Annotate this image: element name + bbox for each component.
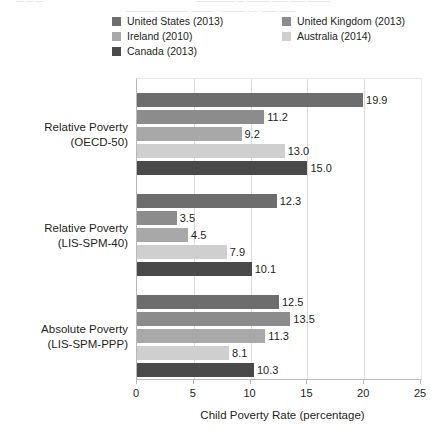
bar[interactable] [137,93,363,107]
bar-value-label: 10.1 [252,264,276,275]
bar[interactable] [137,363,254,377]
legend-item-canada[interactable]: Canada (2013) [112,44,197,58]
legend-label-australia: Australia (2014) [297,31,371,42]
category-label-line: (LIS-SPM-40) [8,236,128,251]
bar[interactable] [137,245,227,259]
bar-row: 19.9 [137,93,421,107]
bar[interactable] [137,161,307,175]
bar-row: 11.2 [137,110,421,124]
legend-item-ireland[interactable]: Ireland (2010) [112,29,192,43]
bar-value-label: 13.0 [285,146,309,157]
category-label-line: Relative Poverty [8,120,128,135]
bar-row: 12.5 [137,295,421,309]
x-axis-title: Child Poverty Rate (percentage) [0,409,445,421]
bar-value-label: 3.5 [177,213,195,224]
bar-value-label: 8.1 [229,348,247,359]
x-tick-label: 25 [405,387,435,399]
bar-row: 8.1 [137,346,421,360]
x-tick [420,379,421,384]
bar-value-label: 4.5 [188,230,206,241]
category-label-line: Relative Poverty [8,221,128,236]
bar-group: 12.513.511.38.110.3 [137,295,421,380]
x-tick [193,379,194,384]
x-tick-label: 0 [121,387,151,399]
bar-value-label: 11.2 [264,112,288,123]
bar-row: 3.5 [137,211,421,225]
bar-group: 12.33.54.57.910.1 [137,194,421,279]
category-label-line: (OECD-50) [8,135,128,150]
x-tick [306,379,307,384]
x-tick [250,379,251,384]
bar[interactable] [137,228,188,242]
bar-value-label: 15.0 [307,163,331,174]
artifact-fragment-right: ————— — ——— —— —— ——— [196,0,331,5]
x-tick [136,379,137,384]
x-tick [363,379,364,384]
bar-value-label: 13.5 [290,314,314,325]
bar-row: 10.3 [137,363,421,377]
bar[interactable] [137,127,242,141]
legend-item-united-kingdom[interactable]: United Kingdom (2013) [282,14,405,28]
bar-value-label: 19.9 [363,95,387,106]
legend-label-ireland: Ireland (2010) [127,31,192,42]
bar-chart: 19.911.29.213.015.012.33.54.57.910.112.5… [0,66,445,426]
bar[interactable] [137,144,285,158]
legend-swatch-canada [112,47,121,56]
bar[interactable] [137,329,265,343]
artifact-fragment-left: — — — [16,0,44,5]
bar[interactable] [137,262,252,276]
bar-row: 4.5 [137,228,421,242]
bar-row: 12.3 [137,194,421,208]
plot-area: 19.911.29.213.015.012.33.54.57.910.112.5… [136,78,422,380]
x-tick-label: 15 [291,387,321,399]
legend-label-united-states: United States (2013) [127,16,223,27]
bar[interactable] [137,295,279,309]
legend-swatch-australia [282,32,291,41]
category-label-line: (LIS-SPM-PPP) [8,337,128,352]
bar-value-label: 12.5 [279,297,303,308]
bar-value-label: 12.3 [277,196,301,207]
bar-value-label: 11.3 [265,331,289,342]
category-label: Absolute Poverty(LIS-SPM-PPP) [8,322,128,352]
legend-label-canada: Canada (2013) [127,46,197,57]
bar-row: 7.9 [137,245,421,259]
bar-row: 13.0 [137,144,421,158]
chart-legend: United States (2013) Ireland (2010) Cana… [112,14,442,62]
page-scan-artifact: — — — ————— — ——— —— —— ——— · ———— ———— … [0,0,445,14]
bar[interactable] [137,312,290,326]
bar-row: 13.5 [137,312,421,326]
legend-item-united-states[interactable]: United States (2013) [112,14,223,28]
x-tick-label: 10 [235,387,265,399]
category-label: Relative Poverty(LIS-SPM-40) [8,221,128,251]
legend-swatch-ireland [112,32,121,41]
bar[interactable] [137,110,264,124]
bar-row: 10.1 [137,262,421,276]
artifact-fragment-center: · ———— ———— ——— · ——— ·— ·—— —— [120,6,295,14]
bar-group: 19.911.29.213.015.0 [137,93,421,178]
legend-item-australia[interactable]: Australia (2014) [282,29,371,43]
bar[interactable] [137,194,277,208]
bar-row: 11.3 [137,329,421,343]
bar-value-label: 9.2 [242,129,260,140]
bar[interactable] [137,211,177,225]
x-tick-label: 5 [178,387,208,399]
bar-row: 9.2 [137,127,421,141]
legend-swatch-united-kingdom [282,17,291,26]
category-label-line: Absolute Poverty [8,322,128,337]
legend-swatch-united-states [112,17,121,26]
category-label: Relative Poverty(OECD-50) [8,120,128,150]
bar-row: 15.0 [137,161,421,175]
x-tick-label: 20 [348,387,378,399]
bar-value-label: 10.3 [254,365,278,376]
bar[interactable] [137,346,229,360]
bar-value-label: 7.9 [227,247,245,258]
legend-label-united-kingdom: United Kingdom (2013) [297,16,405,27]
